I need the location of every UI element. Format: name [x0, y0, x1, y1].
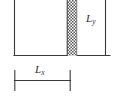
width-dimension-label: Lx: [35, 64, 44, 77]
width-label-subscript: x: [41, 68, 44, 77]
hatched-wall-region: [67, 0, 77, 56]
figure-container: Ly Lx: [0, 0, 115, 112]
height-dimension-label: Ly: [86, 13, 95, 26]
diagram-canvas: [0, 0, 115, 112]
height-label-subscript: y: [92, 17, 95, 26]
